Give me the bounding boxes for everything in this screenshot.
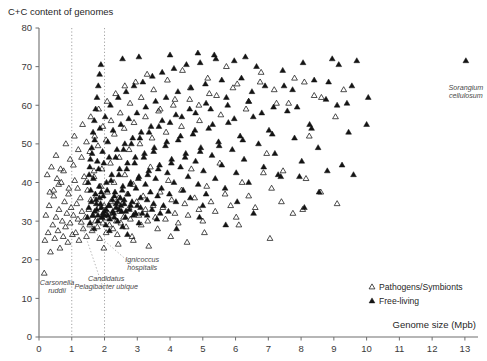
data-point-free-living — [124, 166, 130, 171]
data-point-pathogen — [163, 216, 169, 221]
data-point-free-living — [166, 191, 172, 196]
data-point-free-living — [246, 98, 252, 103]
data-point-pathogen — [64, 210, 70, 215]
data-point-free-living — [184, 62, 190, 67]
data-point-free-living — [146, 129, 152, 134]
data-point-free-living — [154, 216, 160, 221]
data-point-pathogen — [81, 174, 87, 179]
data-point-free-living — [272, 150, 278, 155]
annotation-label: ruddii — [48, 286, 66, 295]
data-point-free-living — [234, 199, 240, 204]
data-point-free-living — [290, 87, 296, 92]
data-point-pathogen — [271, 87, 277, 92]
data-point-pathogen — [168, 233, 174, 238]
data-point-pathogen — [79, 208, 85, 213]
data-point-free-living — [151, 145, 157, 150]
data-point-pathogen — [233, 214, 239, 219]
data-point-pathogen — [204, 183, 210, 188]
data-point-pathogen — [264, 150, 270, 155]
annotation-label: Pelagibacter ubique — [74, 282, 138, 291]
data-point-free-living — [197, 60, 203, 65]
data-point-free-living — [216, 139, 222, 144]
data-point-free-living — [105, 139, 111, 144]
data-point-free-living — [136, 54, 142, 59]
x-tick-label: 2 — [102, 343, 107, 354]
data-point-free-living — [334, 102, 340, 107]
data-point-pathogen — [149, 135, 155, 140]
data-point-free-living — [157, 210, 163, 215]
data-point-free-living — [165, 170, 171, 175]
data-point-free-living — [159, 118, 165, 123]
data-point-free-living — [118, 121, 124, 126]
data-point-free-living — [222, 185, 228, 190]
data-point-free-living — [153, 176, 159, 181]
data-point-pathogen — [45, 230, 51, 235]
data-point-free-living — [167, 52, 173, 57]
data-point-pathogen — [214, 92, 220, 97]
data-point-pathogen — [108, 118, 114, 123]
data-point-pathogen — [333, 114, 339, 119]
data-point-pathogen — [104, 98, 110, 103]
data-point-pathogen — [77, 195, 83, 200]
data-point-pathogen — [71, 133, 77, 138]
data-point-free-living — [138, 195, 144, 200]
data-point-pathogen — [172, 96, 178, 101]
data-point-free-living — [123, 89, 129, 94]
data-point-free-living — [219, 77, 225, 82]
data-point-free-living — [147, 189, 153, 194]
data-point-free-living — [294, 104, 300, 109]
data-point-pathogen — [62, 199, 68, 204]
data-point-free-living — [112, 189, 118, 194]
data-point-pathogen — [41, 270, 47, 275]
data-point-pathogen — [269, 185, 275, 190]
data-point-free-living — [239, 75, 245, 80]
data-point-free-living — [256, 141, 262, 146]
y-tick-label: 70 — [21, 61, 32, 72]
data-point-pathogen — [261, 170, 267, 175]
data-point-pathogen — [334, 201, 340, 206]
data-point-pathogen — [205, 75, 211, 80]
data-point-free-living — [223, 222, 229, 227]
data-point-free-living — [300, 60, 306, 65]
data-point-pathogen — [51, 193, 57, 198]
data-point-free-living — [108, 177, 114, 182]
data-point-pathogen — [55, 228, 61, 233]
data-point-pathogen — [114, 232, 120, 237]
data-point-free-living — [271, 104, 277, 109]
data-point-free-living — [250, 114, 256, 119]
data-point-pathogen — [51, 187, 57, 192]
data-point-pathogen — [228, 203, 234, 208]
data-point-free-living — [120, 183, 126, 188]
data-point-pathogen — [76, 237, 82, 242]
plot-canvas: 01020304050607080012345678910111213Genom… — [0, 0, 487, 361]
data-point-free-living — [87, 164, 93, 169]
x-tick-label: 8 — [298, 343, 303, 354]
data-point-pathogen — [126, 147, 132, 152]
data-point-pathogen — [122, 83, 128, 88]
data-point-pathogen — [188, 166, 194, 171]
data-point-pathogen — [163, 129, 169, 134]
data-point-free-living — [128, 141, 134, 146]
data-point-free-living — [237, 133, 243, 138]
data-point-free-living — [87, 220, 93, 225]
data-point-pathogen — [49, 164, 55, 169]
x-tick-label: 9 — [331, 343, 336, 354]
data-point-pathogen — [57, 245, 63, 250]
data-point-pathogen — [303, 176, 309, 181]
data-point-pathogen — [239, 179, 245, 184]
data-point-free-living — [149, 73, 155, 78]
data-point-free-living — [108, 102, 114, 107]
data-point-pathogen — [137, 141, 143, 146]
x-tick-label: 12 — [427, 343, 438, 354]
data-point-free-living — [151, 201, 157, 206]
data-point-free-living — [143, 181, 149, 186]
y-tick-label: 30 — [21, 216, 32, 227]
data-point-pathogen — [78, 219, 84, 224]
data-point-pathogen — [212, 208, 218, 213]
data-point-free-living — [139, 210, 145, 215]
y-tick-label: 80 — [21, 22, 32, 33]
data-point-pathogen — [187, 96, 193, 101]
data-point-pathogen — [165, 77, 171, 82]
data-point-free-living — [102, 114, 108, 119]
data-point-pathogen — [143, 206, 149, 211]
